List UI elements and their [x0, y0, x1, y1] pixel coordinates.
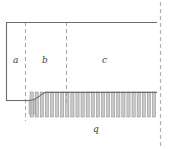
region-label-c: c	[102, 56, 107, 65]
figure-container: a b c q	[0, 0, 170, 149]
flux-label-q: q	[93, 125, 99, 134]
region-label-b: b	[42, 56, 48, 65]
figure-drawing	[0, 0, 170, 149]
wall-hatching	[29, 92, 156, 117]
region-label-a: a	[13, 56, 18, 65]
